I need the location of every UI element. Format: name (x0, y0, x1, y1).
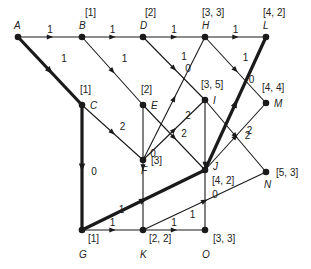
node-D: D[2] (140, 7, 157, 40)
node-F: F[3] (140, 155, 163, 176)
node-name: G (79, 249, 87, 260)
edges-layer: 1111111120200220102111 (18, 24, 266, 233)
edge-K-O: 1 (143, 217, 205, 233)
node-dot (202, 34, 209, 41)
edge-weight: 2 (185, 110, 191, 121)
edge-H-M: 1 (205, 37, 266, 103)
node-name: I (213, 95, 216, 106)
edge-A-B: 1 (18, 24, 82, 40)
node-H: H[3, 3] (202, 7, 225, 40)
edge-J-M: 2 (205, 103, 266, 170)
edge-weight: 1 (243, 52, 249, 63)
edge-A-C: 1 (18, 37, 82, 105)
node-label: [4, 2] (263, 7, 285, 18)
edge-weight: 1 (171, 217, 177, 228)
node-name: M (274, 98, 283, 109)
edge-weight: 1 (181, 51, 187, 62)
network-diagram: 1111111120200220102111 AB[1]D[2]H[3, 3]L… (0, 0, 311, 269)
node-name: L (263, 20, 269, 31)
node-dot (79, 102, 86, 109)
node-dot (202, 227, 209, 234)
arrowhead-icon (171, 227, 177, 232)
node-label: [2] (145, 7, 156, 18)
node-dot (202, 97, 209, 104)
nodes-layer: AB[1]D[2]H[3, 3]L[4, 2]C[1]E[2]I[3, 5]M[… (13, 7, 298, 260)
node-E: E[2] (140, 84, 158, 111)
node-dot (79, 34, 86, 41)
node-dot (79, 227, 86, 234)
node-label: [3, 3] (213, 233, 235, 244)
node-M: M[4, 4] (262, 82, 284, 109)
edge-weight: 2 (120, 121, 126, 132)
graph-svg: 1111111120200220102111 AB[1]D[2]H[3, 3]L… (0, 0, 311, 269)
node-label: [1] (80, 84, 91, 95)
arrowhead-icon (232, 34, 238, 39)
arrowhead-icon (79, 164, 85, 172)
node-label: [3, 3] (202, 7, 224, 18)
node-label: [3] (151, 155, 162, 166)
node-I: I[3, 5] (201, 79, 223, 106)
node-K: K[2, 2] (140, 227, 172, 260)
node-name: F (141, 165, 148, 176)
edge-weight: 1 (47, 24, 53, 35)
node-name: D (140, 20, 147, 31)
edge-D-H: 1 (143, 24, 205, 40)
node-dot (140, 227, 147, 234)
node-dot (140, 34, 147, 41)
edge-weight: 1 (110, 24, 116, 35)
edge-F-H: 0 (143, 37, 205, 160)
edge-B-D: 1 (82, 24, 143, 40)
edge-weight: 2 (247, 125, 253, 136)
node-N: N[5, 3] (263, 167, 299, 190)
node-label: [3, 5] (201, 79, 223, 90)
edge-weight: 1 (233, 24, 239, 35)
node-dot (202, 167, 209, 174)
edge-weight: 0 (91, 166, 97, 177)
node-name: E (151, 100, 158, 111)
edge-weight: 1 (171, 24, 177, 35)
edge-weight: 0 (185, 63, 191, 74)
node-label: [4, 4] (262, 82, 284, 93)
arrowhead-icon (171, 34, 177, 39)
node-dot (263, 100, 270, 107)
arrowhead-icon (47, 34, 53, 39)
edge-C-F: 2 (82, 105, 143, 160)
node-name: B (79, 20, 86, 31)
edge-weight: 1 (190, 209, 196, 220)
arrowhead-icon (170, 94, 177, 102)
node-name: H (202, 20, 210, 31)
edge-C-G: 0 (79, 105, 97, 230)
arrowhead-icon (109, 34, 115, 39)
node-G: G[1] (79, 227, 100, 260)
node-name: C (90, 100, 98, 111)
node-label: [5, 3] (276, 167, 298, 178)
node-name: A (13, 20, 21, 31)
edge-weight: 1 (122, 53, 128, 64)
node-label: [4, 2] (212, 175, 234, 186)
edge-weight: 2 (181, 128, 187, 139)
edge-H-L: 1 (205, 24, 266, 40)
edge-B-E: 1 (82, 37, 143, 105)
node-B: B[1] (79, 7, 97, 40)
arrowhead-icon (109, 227, 115, 232)
edge-weight: 1 (119, 204, 125, 215)
edge-weight: 1 (110, 217, 116, 228)
node-dot (15, 34, 22, 41)
node-name: J (212, 161, 219, 172)
node-C: C[1] (79, 84, 98, 111)
node-A: A (13, 20, 21, 40)
node-name: O (202, 249, 210, 260)
node-dot (140, 157, 147, 164)
node-name: N (264, 179, 272, 190)
node-dot (263, 169, 270, 176)
node-O: O[3, 3] (202, 227, 236, 260)
edge-weight: 1 (61, 53, 67, 64)
node-label: [1] (88, 233, 99, 244)
node-L: L[4, 2] (263, 7, 286, 40)
node-name: K (140, 249, 148, 260)
edge-weight: 0 (249, 74, 255, 85)
node-dot (263, 34, 270, 41)
node-label: [1] (85, 7, 96, 18)
edge-D-I: 1 (143, 37, 205, 100)
node-label: [2, 2] (149, 233, 171, 244)
